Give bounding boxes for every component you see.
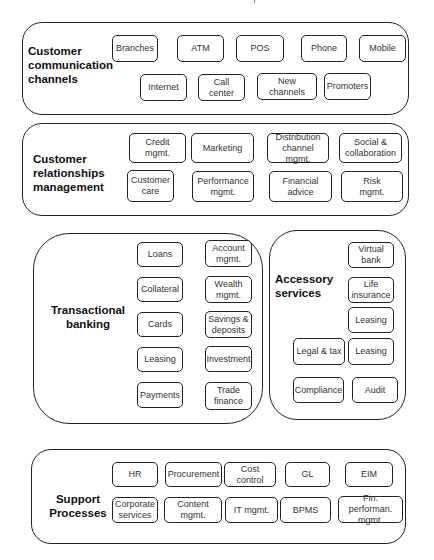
node-cards[interactable]: Cards <box>137 312 183 337</box>
node-loans[interactable]: Loans <box>137 242 183 267</box>
node-financial-advice[interactable]: Financial advice <box>269 171 332 202</box>
node-atm[interactable]: ATM <box>177 35 224 62</box>
node-hr[interactable]: HR <box>112 462 158 487</box>
node-eim[interactable]: EIM <box>345 462 393 487</box>
group-label-transactional-banking: Transactional banking <box>48 303 128 331</box>
node-gl[interactable]: GL <box>285 462 330 487</box>
node-social-collaboration[interactable]: Social & collaboration <box>339 133 402 163</box>
node-savings-deposits[interactable]: Savings & deposits <box>205 311 252 338</box>
node-branches[interactable]: Branches <box>112 35 158 62</box>
group-label-support-processes: Support Processes <box>49 492 107 520</box>
node-marketing[interactable]: Marketing <box>191 133 254 163</box>
node-cost-control[interactable]: Cost control <box>224 462 276 487</box>
node-payments[interactable]: Payments <box>137 382 183 408</box>
node-fin-performance-mgmt[interactable]: Fin. performan. mgmt. <box>338 496 403 523</box>
node-virtual-bank[interactable]: Virtual bank <box>348 242 394 268</box>
node-risk-mgmt[interactable]: Risk mgmt. <box>341 171 403 202</box>
node-call-center[interactable]: Call center <box>198 74 245 101</box>
node-trade-finance[interactable]: Trade finance <box>205 382 252 410</box>
node-content-mgmt[interactable]: Content mgmt. <box>164 497 222 523</box>
node-compliance[interactable]: Compliance <box>293 377 344 403</box>
node-collateral[interactable]: Collateral <box>137 277 183 302</box>
node-bpms[interactable]: BPMS <box>280 497 331 523</box>
node-phone[interactable]: Phone <box>301 35 347 62</box>
node-customer-care[interactable]: Customer care <box>127 170 174 202</box>
node-it-mgmt[interactable]: IT mgmt. <box>225 497 278 523</box>
node-account-mgmt[interactable]: Account mgmt. <box>205 240 252 267</box>
node-audit[interactable]: Audit <box>352 377 398 403</box>
node-leasing[interactable]: Leasing <box>137 347 183 372</box>
node-new-channels[interactable]: New channels <box>257 73 317 100</box>
top-edge-mark <box>254 0 255 3</box>
node-pos[interactable]: POS <box>236 35 284 62</box>
node-credit-mgmt[interactable]: Credit mgmt. <box>129 133 186 163</box>
node-accessory-leasing-1[interactable]: Leasing <box>348 307 394 333</box>
node-internet[interactable]: Internet <box>140 74 187 101</box>
node-accessory-leasing-2[interactable]: Leasing <box>348 338 394 365</box>
node-procurement[interactable]: Procurement <box>165 462 222 487</box>
group-label-accessory-services: Accessory services <box>275 272 333 300</box>
node-performance-mgmt[interactable]: Performance mgmt. <box>192 171 254 202</box>
node-wealth-mgmt[interactable]: Wealth mgmt. <box>205 276 252 303</box>
node-promoters[interactable]: Promoters <box>324 73 371 100</box>
group-label-customer-relationships-management: Customer relationships management <box>33 152 105 194</box>
group-label-customer-communication-channels: Customer communication channels <box>28 44 113 86</box>
node-legal-tax[interactable]: Legal & tax <box>293 338 345 365</box>
node-life-insurance[interactable]: Life insurance <box>348 277 394 303</box>
node-corporate-services[interactable]: Corporate services <box>112 497 158 523</box>
node-distribution-channel-mgmt[interactable]: Distribution channel mgmt. <box>267 133 329 163</box>
node-investment[interactable]: Investment <box>205 346 252 372</box>
node-mobile[interactable]: Mobile <box>359 35 406 62</box>
